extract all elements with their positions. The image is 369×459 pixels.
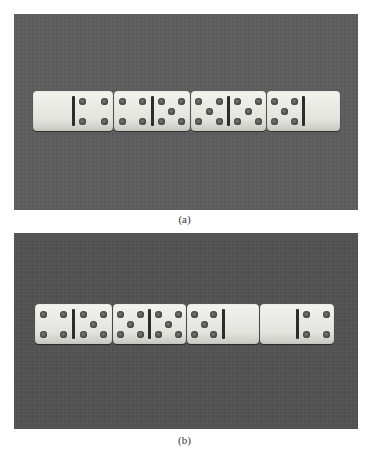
pip [158, 98, 165, 105]
pip [155, 311, 162, 318]
domino-row-b [35, 304, 334, 344]
pip [100, 331, 107, 338]
pip [168, 108, 175, 115]
pip [255, 118, 262, 125]
pip [80, 331, 87, 338]
photo-panel-a [14, 14, 358, 210]
pip [137, 331, 144, 338]
domino-half-right-5-pips [154, 91, 191, 131]
pip [271, 118, 278, 125]
pip [206, 108, 213, 115]
pip [178, 98, 185, 105]
domino-half-left-4-pips [35, 304, 72, 344]
pip [90, 321, 97, 328]
domino-half-left-0-pips [260, 304, 296, 344]
pip [137, 311, 144, 318]
domino-4-5 [114, 91, 190, 131]
pip [139, 98, 146, 105]
pip [165, 321, 172, 328]
pip [323, 331, 330, 338]
pip [119, 118, 126, 125]
pip [139, 118, 146, 125]
pip [303, 311, 310, 318]
caption-b: (b) [0, 434, 369, 446]
domino-half-left-5-pips [113, 304, 148, 344]
pip [195, 118, 202, 125]
pip [60, 331, 67, 338]
pip [175, 311, 182, 318]
pip [216, 118, 223, 125]
domino-half-right-4-pips [75, 91, 114, 131]
domino-half-left-0-pips [33, 91, 72, 131]
pip [216, 98, 223, 105]
domino-row-a [33, 91, 340, 131]
pip [100, 311, 107, 318]
domino-half-right-5-pips [230, 91, 266, 131]
pip [210, 311, 217, 318]
domino-5-0 [187, 304, 259, 344]
domino-half-left-5-pips [267, 91, 302, 131]
pip [191, 331, 198, 338]
domino-half-right-4-pips [299, 304, 335, 344]
domino-4-5 [35, 304, 112, 344]
pip [119, 98, 126, 105]
pip [127, 321, 134, 328]
pip [303, 331, 310, 338]
domino-5-5 [113, 304, 186, 344]
domino-half-left-5-pips [187, 304, 222, 344]
pip [158, 118, 165, 125]
pip [117, 331, 124, 338]
domino-half-right-5-pips [151, 304, 186, 344]
pip [117, 311, 124, 318]
domino-5-5 [191, 91, 266, 131]
pip [60, 311, 67, 318]
pip [195, 98, 202, 105]
pip [191, 311, 198, 318]
pip [101, 98, 108, 105]
pip [245, 108, 252, 115]
pip [234, 118, 241, 125]
pip [291, 118, 298, 125]
pip [281, 108, 288, 115]
domino-0-4 [260, 304, 334, 344]
pip [255, 98, 262, 105]
pip [210, 331, 217, 338]
pip [201, 321, 208, 328]
pip [291, 98, 298, 105]
photo-panel-b [14, 233, 358, 429]
pip [79, 118, 86, 125]
pip [79, 98, 86, 105]
pip [271, 98, 278, 105]
domino-half-right-0-pips [305, 91, 340, 131]
domino-5-0 [267, 91, 340, 131]
domino-half-right-0-pips [225, 304, 260, 344]
domino-half-left-4-pips [114, 91, 151, 131]
pip [323, 311, 330, 318]
pip [175, 331, 182, 338]
domino-half-left-5-pips [191, 91, 227, 131]
pip [178, 118, 185, 125]
pip [155, 331, 162, 338]
pip [101, 118, 108, 125]
pip [234, 98, 241, 105]
pip [40, 331, 47, 338]
pip [80, 311, 87, 318]
domino-0-4 [33, 91, 113, 131]
caption-a: (a) [0, 213, 369, 225]
domino-half-right-5-pips [75, 304, 112, 344]
pip [40, 311, 47, 318]
